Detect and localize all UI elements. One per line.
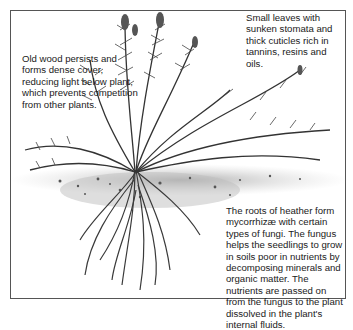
leaves-annotation: Small leaves with sunken stomata and thi…	[246, 12, 341, 69]
old-wood-annotation: Old wood persists and forms dense cover,…	[22, 53, 142, 110]
roots-annotation: The roots of heather form mycorrhizæ wit…	[226, 205, 346, 330]
soil-layer	[10, 164, 350, 208]
